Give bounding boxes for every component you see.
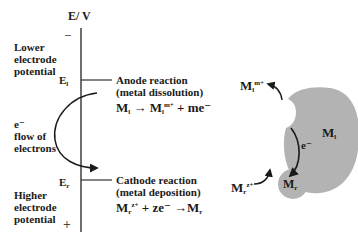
lower-potential-line1: Lower — [14, 41, 57, 53]
lower-potential-line2: electrode — [14, 53, 57, 65]
lower-potential-line3: potential — [14, 65, 57, 77]
electron-flow-arrow — [55, 93, 97, 168]
large-metal-label: Ml — [322, 126, 336, 144]
electron-symbol: e⁻ — [14, 118, 56, 130]
anode-subtitle: (metal dissolution) — [116, 86, 211, 98]
ion-out-arrow — [268, 84, 282, 100]
er-label: Er — [59, 176, 69, 192]
higher-potential-line2: electrode — [14, 201, 57, 213]
e1-label: El — [59, 74, 68, 90]
cathode-reactant: M — [116, 200, 128, 215]
anode-reaction: Anode reaction (metal dissolution) Ml → … — [116, 74, 211, 119]
ion-in-symbol: M — [231, 180, 243, 195]
cathode-reactant-sub: r — [128, 208, 131, 216]
cathode-subtitle: (metal deposition) — [116, 186, 202, 198]
large-metal-symbol: M — [322, 125, 334, 140]
ion-out-sub: l — [252, 86, 254, 94]
electron-flow-line1: flow of — [14, 130, 56, 142]
cathode-electrons: + ze⁻ — [139, 200, 175, 215]
lower-potential-label: Lower electrode potential — [14, 41, 57, 77]
ion-out-label: Mlm+ — [240, 76, 264, 97]
internal-electron-label: e⁻ — [301, 139, 312, 151]
anode-product-sub: l — [162, 108, 164, 116]
ion-in-sup: z+ — [246, 181, 253, 189]
e1-subscript: l — [66, 80, 68, 88]
axis-title: E/ V — [68, 10, 91, 22]
minus-sign: − — [64, 30, 71, 42]
ion-out-sup: m+ — [254, 79, 264, 87]
small-metal-label: Mr — [283, 177, 297, 195]
anode-reactant: M — [116, 100, 128, 115]
small-metal-symbol: M — [283, 177, 294, 191]
electron-flow-label: e⁻ flow of electrons — [14, 118, 56, 154]
cathode-reactant-sup: z+ — [131, 201, 138, 209]
anode-title: Anode reaction — [116, 74, 211, 86]
cathode-product: M — [187, 200, 199, 215]
ion-in-label: Mrz+ — [231, 178, 254, 199]
electron-flow-line2: electrons — [14, 142, 56, 154]
plus-sign: + — [63, 219, 71, 231]
ion-in-sub: r — [243, 188, 246, 196]
cathode-arrow: → — [174, 200, 187, 215]
er-subscript: r — [66, 182, 69, 190]
large-metal-sub: l — [334, 133, 336, 141]
anode-product-sup: m+ — [164, 101, 174, 109]
cathode-title: Cathode reaction — [116, 174, 202, 186]
ion-in-arrow — [254, 170, 270, 184]
cathode-product-sub: r — [199, 208, 202, 216]
anode-product: M — [150, 100, 162, 115]
anode-arrow: → — [130, 100, 150, 115]
higher-potential-label: Higher electrode potential — [14, 189, 57, 225]
higher-potential-line1: Higher — [14, 189, 57, 201]
cathode-reaction: Cathode reaction (metal deposition) Mrz+… — [116, 174, 202, 219]
anode-equation: Ml → Mlm+ + me⁻ — [116, 98, 211, 119]
anode-electrons: + me⁻ — [174, 100, 211, 115]
small-metal-sub: r — [294, 184, 297, 192]
ion-out-symbol: M — [240, 78, 252, 93]
cathode-equation: Mrz+ + ze⁻ →Mr — [116, 198, 202, 219]
higher-potential-line3: potential — [14, 213, 57, 225]
